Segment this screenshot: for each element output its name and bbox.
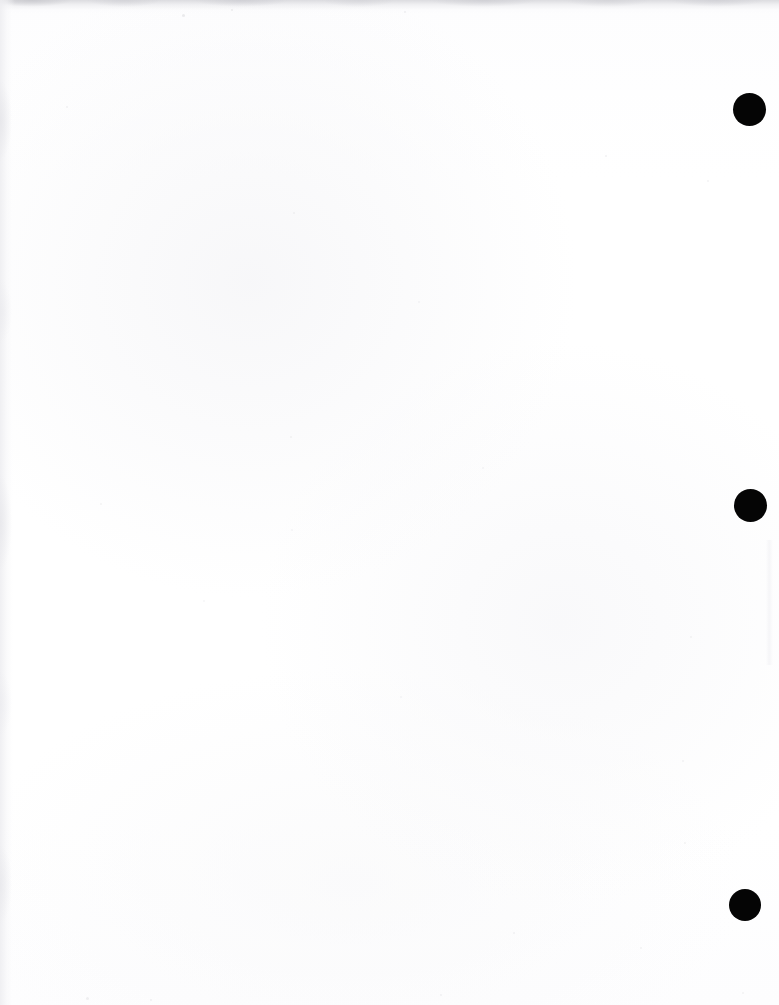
scan-speck [418, 301, 420, 303]
scan-speck [290, 436, 292, 438]
paper-surface [0, 0, 779, 1005]
scan-speck [100, 503, 102, 505]
scan-speck [404, 11, 406, 13]
scan-speck [690, 636, 692, 638]
scan-speck [291, 529, 293, 531]
scanned-page [0, 0, 779, 1005]
scan-speck [605, 155, 607, 157]
scan-speck [400, 696, 402, 698]
scan-speck [150, 999, 152, 1001]
scan-speck [707, 180, 709, 182]
scan-shadow-top-edge [0, 0, 779, 14]
scan-shadow-left-edge [0, 0, 15, 1005]
scan-speck [293, 212, 295, 214]
scan-speck [203, 600, 205, 602]
scan-speck [513, 932, 515, 934]
scan-speck [742, 992, 744, 994]
scan-speck [684, 842, 686, 844]
scan-speck [182, 14, 185, 17]
margin-mark-top [733, 93, 766, 126]
scan-speck [440, 994, 442, 996]
scan-speck [66, 106, 68, 108]
scan-speck [482, 467, 484, 469]
scan-speck [682, 760, 684, 762]
scan-speck [231, 9, 233, 11]
margin-mark-bottom [729, 889, 761, 921]
margin-mark-middle [734, 489, 767, 522]
scan-speck [86, 997, 89, 1000]
scan-streak-right-margin [766, 540, 773, 665]
scan-speck [640, 947, 642, 949]
